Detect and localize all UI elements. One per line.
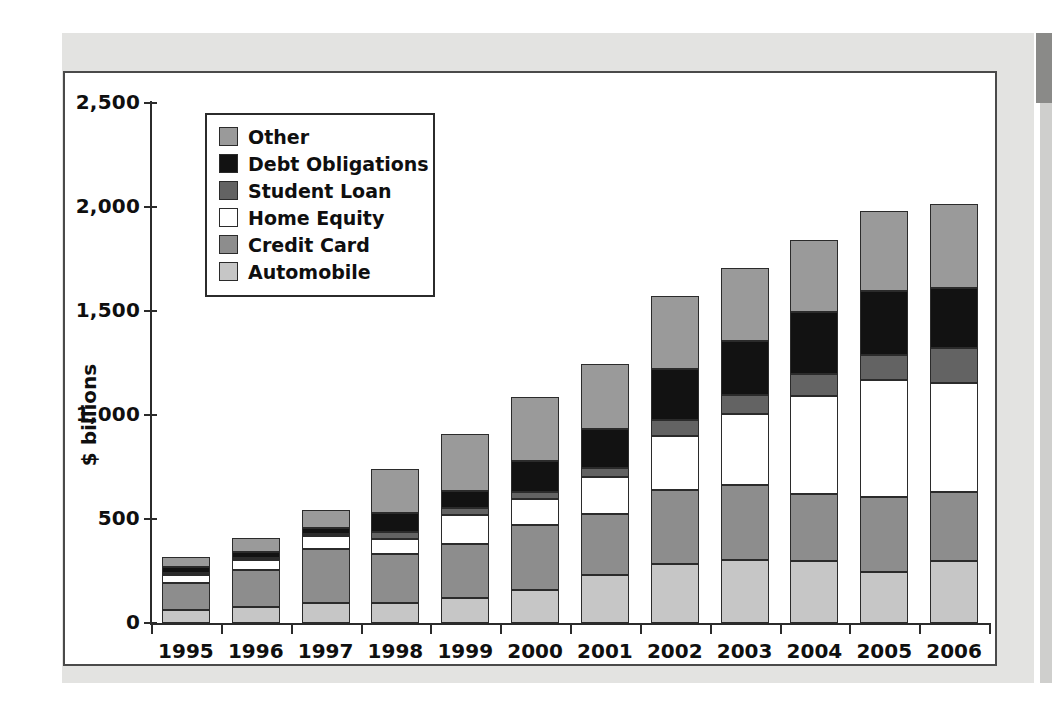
bar-segment[interactable]	[581, 429, 629, 468]
bar-segment[interactable]	[441, 491, 489, 508]
bar-segment[interactable]	[511, 499, 559, 525]
bar-segment[interactable]	[441, 434, 489, 491]
bar-segment[interactable]	[721, 485, 769, 560]
legend-item[interactable]: Automobile	[219, 258, 423, 285]
bar-segment[interactable]	[860, 291, 908, 355]
bar-segment[interactable]	[860, 380, 908, 497]
bar-segment[interactable]	[930, 383, 978, 492]
bar-segment[interactable]	[302, 534, 350, 536]
x-tick-label: 2000	[495, 639, 575, 663]
bar-segment[interactable]	[651, 490, 699, 564]
bar-segment[interactable]	[930, 348, 978, 383]
x-tick-label: 2002	[635, 639, 715, 663]
bar-segment[interactable]	[930, 492, 978, 561]
bar-segment[interactable]	[651, 436, 699, 490]
bar-segment[interactable]	[721, 268, 769, 341]
bar-segment[interactable]	[930, 204, 978, 288]
bar-segment[interactable]	[860, 211, 908, 291]
bar-segment[interactable]	[232, 558, 280, 560]
bar-segment[interactable]	[232, 560, 280, 570]
legend-item[interactable]: Credit Card	[219, 231, 423, 258]
bar-segment[interactable]	[651, 420, 699, 436]
legend-item[interactable]: Student Loan	[219, 177, 423, 204]
x-tick-mark	[361, 623, 363, 634]
bar-segment[interactable]	[651, 369, 699, 420]
bar-segment[interactable]	[581, 364, 629, 429]
x-tick-mark	[291, 623, 293, 634]
bar-segment[interactable]	[721, 560, 769, 623]
bar-segment[interactable]	[511, 461, 559, 492]
bar-stack[interactable]	[860, 73, 908, 623]
scan-edge-shadow	[1036, 33, 1052, 103]
bar-segment[interactable]	[302, 528, 350, 534]
bar-stack[interactable]	[721, 73, 769, 623]
bar-segment[interactable]	[162, 567, 210, 573]
bar-segment[interactable]	[790, 312, 838, 374]
bar-segment[interactable]	[860, 355, 908, 380]
x-tick-label: 1995	[146, 639, 226, 663]
bar-segment[interactable]	[302, 549, 350, 603]
bar-segment[interactable]	[860, 497, 908, 572]
bar-segment[interactable]	[581, 514, 629, 575]
bar-segment[interactable]	[162, 610, 210, 623]
bar-segment[interactable]	[371, 539, 419, 554]
bar-stack[interactable]	[790, 73, 838, 623]
x-tick-mark	[430, 623, 432, 634]
bar-segment[interactable]	[721, 395, 769, 414]
bar-stack[interactable]	[651, 73, 699, 623]
bar-segment[interactable]	[511, 492, 559, 499]
bar-segment[interactable]	[581, 477, 629, 514]
x-tick-label: 2001	[565, 639, 645, 663]
bar-segment[interactable]	[581, 575, 629, 623]
bar-segment[interactable]	[790, 396, 838, 494]
scan-edge-shadow-lower	[1040, 103, 1052, 683]
bar-segment[interactable]	[162, 575, 210, 583]
bar-segment[interactable]	[721, 414, 769, 485]
bar-segment[interactable]	[790, 561, 838, 623]
bar-segment[interactable]	[441, 544, 489, 598]
bar-segment[interactable]	[790, 240, 838, 312]
bar-segment[interactable]	[162, 583, 210, 610]
bar-segment[interactable]	[302, 603, 350, 623]
bar-segment[interactable]	[371, 554, 419, 603]
bar-segment[interactable]	[651, 296, 699, 369]
bar-segment[interactable]	[860, 572, 908, 623]
bar-segment[interactable]	[581, 468, 629, 477]
bar-stack[interactable]	[930, 73, 978, 623]
bar-stack[interactable]	[511, 73, 559, 623]
bar-segment[interactable]	[790, 494, 838, 561]
bar-segment[interactable]	[441, 508, 489, 515]
bar-segment[interactable]	[371, 603, 419, 623]
bar-segment[interactable]	[721, 341, 769, 395]
bar-segment[interactable]	[232, 607, 280, 623]
scan-bottom-margin	[0, 683, 1052, 718]
bar-segment[interactable]	[232, 570, 280, 607]
bar-segment[interactable]	[441, 598, 489, 623]
legend-item[interactable]: Home Equity	[219, 204, 423, 231]
bar-segment[interactable]	[162, 573, 210, 575]
bar-segment[interactable]	[371, 532, 419, 539]
bar-segment[interactable]	[371, 469, 419, 513]
bar-segment[interactable]	[302, 536, 350, 549]
bar-segment[interactable]	[930, 288, 978, 348]
x-tick-label: 1999	[425, 639, 505, 663]
bar-segment[interactable]	[441, 515, 489, 544]
bar-stack[interactable]	[162, 73, 210, 623]
bar-segment[interactable]	[930, 561, 978, 623]
legend-item[interactable]: Other	[219, 123, 423, 150]
bar-stack[interactable]	[581, 73, 629, 623]
bar-segment[interactable]	[162, 557, 210, 567]
bar-segment[interactable]	[790, 374, 838, 396]
bar-segment[interactable]	[232, 552, 280, 558]
bar-stack[interactable]	[441, 73, 489, 623]
bar-segment[interactable]	[371, 513, 419, 532]
bar-segment[interactable]	[511, 525, 559, 590]
bar-segment[interactable]	[302, 510, 350, 528]
bar-segment[interactable]	[511, 590, 559, 623]
legend-item[interactable]: Debt Obligations	[219, 150, 423, 177]
y-tick-label: 2,000	[66, 194, 140, 218]
bar-segment[interactable]	[651, 564, 699, 623]
bar-segment[interactable]	[511, 397, 559, 461]
bar-segment[interactable]	[232, 538, 280, 552]
x-tick-mark	[500, 623, 502, 634]
